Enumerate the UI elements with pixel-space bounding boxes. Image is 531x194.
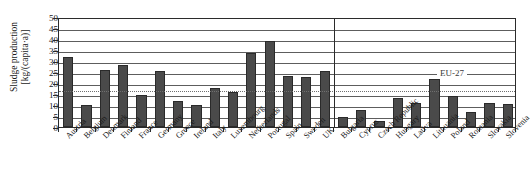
y-axis-title-line2: [kg/(capita·a)] bbox=[20, 1, 31, 113]
x-axis-tick-mark bbox=[333, 128, 334, 132]
eu27-reference-line bbox=[59, 91, 515, 92]
y-axis-title-container: Sludge production [kg/(capita·a)] bbox=[0, 0, 40, 130]
x-axis-tick-mark bbox=[223, 128, 224, 132]
bar bbox=[301, 77, 311, 127]
x-axis-tick-mark bbox=[406, 128, 407, 132]
x-axis-tick-mark bbox=[296, 128, 297, 132]
x-axis-tick-mark bbox=[186, 128, 187, 132]
bar bbox=[429, 79, 439, 127]
plot-inner: EU-27 bbox=[59, 19, 515, 127]
bar bbox=[155, 71, 165, 127]
x-axis-tick-mark bbox=[351, 128, 352, 132]
gridline bbox=[59, 41, 515, 42]
x-axis-tick-mark bbox=[95, 128, 96, 132]
x-axis-tick-mark bbox=[205, 128, 206, 132]
group-divider bbox=[334, 19, 335, 127]
gridline bbox=[59, 52, 515, 53]
gridline bbox=[59, 30, 515, 31]
x-axis-tick-mark bbox=[369, 128, 370, 132]
x-axis-tick-mark bbox=[479, 128, 480, 132]
eu27-reference-label: EU-27 bbox=[437, 69, 467, 78]
x-axis-tick-mark bbox=[424, 128, 425, 132]
bar bbox=[228, 92, 238, 127]
x-axis-tick-mark bbox=[443, 128, 444, 132]
plot-area: EU-27 bbox=[58, 18, 516, 128]
x-axis-tick-mark bbox=[241, 128, 242, 132]
y-axis-title: Sludge production [kg/(capita·a)] bbox=[9, 1, 31, 113]
x-axis-tick-mark bbox=[388, 128, 389, 132]
x-axis-tick-mark bbox=[314, 128, 315, 132]
x-axis-tick-mark bbox=[113, 128, 114, 132]
gridline bbox=[59, 63, 515, 64]
x-axis-tick-mark bbox=[260, 128, 261, 132]
y-axis-title-line1: Sludge production bbox=[9, 22, 19, 92]
x-axis-tick-mark bbox=[461, 128, 462, 132]
x-axis-tick-mark bbox=[76, 128, 77, 132]
x-axis-tick-mark bbox=[498, 128, 499, 132]
x-axis-tick-mark bbox=[278, 128, 279, 132]
x-axis-tick-mark bbox=[58, 128, 59, 132]
x-axis-tick-mark bbox=[131, 128, 132, 132]
x-axis-tick-mark bbox=[150, 128, 151, 132]
x-axis-tick-mark bbox=[168, 128, 169, 132]
x-axis-tick-mark bbox=[515, 128, 516, 132]
x-axis: AustriaBelgiumDenmarkFinlandFranceGerman… bbox=[58, 128, 516, 194]
